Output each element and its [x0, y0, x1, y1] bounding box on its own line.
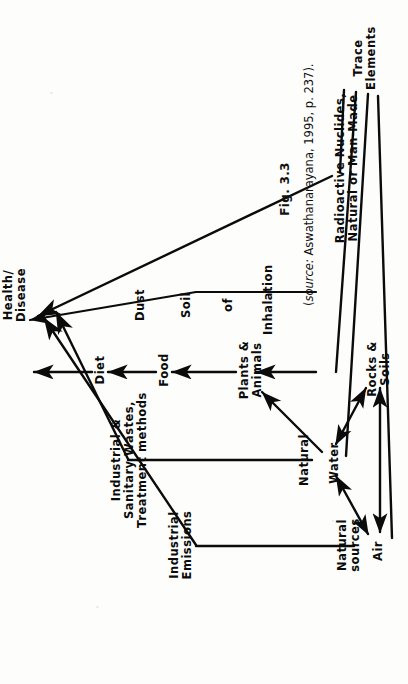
source-prefix: source: — [302, 259, 316, 301]
figure-number: Fig. 3.3 — [278, 159, 292, 219]
rotated-figure-container: Health/ Disease Air Water Rocks & Soils … — [0, 0, 408, 684]
edge-label-inhalation-word-1: Inhalation — [262, 271, 275, 335]
scan-speck — [50, 92, 53, 94]
node-diet: Diet — [94, 350, 107, 390]
scan-speck — [96, 606, 99, 608]
edge-label-industrial-emissions: Industrial Emissions — [168, 510, 194, 580]
scan-speck — [18, 300, 20, 303]
edge-label-inhalation-word-3: Soil — [180, 287, 193, 323]
edge-water-rocks-bidirectional — [336, 388, 366, 444]
figure-page: Health/ Disease Air Water Rocks & Soils … — [0, 0, 408, 684]
node-air: Air — [372, 534, 385, 568]
edge-label-natural-sources: Natural sources — [336, 512, 362, 578]
node-radioactive-nuclides: Radioactive Nuclides, Natural or Man-Mad… — [334, 92, 360, 244]
edge-label-natural: Natural — [298, 432, 311, 488]
node-water: Water — [328, 441, 341, 485]
diagram-canvas: Health/ Disease Air Water Rocks & Soils … — [0, 0, 408, 684]
figure-source-caption: (source: Aswathanarayana, 1995, p. 237). — [302, 66, 316, 306]
node-trace-elements: Trace Elements — [352, 22, 378, 94]
edge-label-inhalation-word-4: Dust — [134, 284, 147, 326]
edge-inhalation-to-health — [30, 292, 196, 320]
node-rocks-soils: Rocks & Soils — [366, 341, 392, 397]
node-health-disease: Health/ Disease — [2, 260, 28, 330]
scan-speck — [332, 520, 334, 522]
node-food: Food — [158, 348, 171, 392]
edge-label-industrial-sanitary-wastes: Industrial & Sanitary Wastes, Treatment … — [110, 388, 149, 532]
edge-label-inhalation-word-2: of — [222, 294, 235, 316]
node-plants-animals: Plants & Animals — [238, 339, 264, 401]
edge-water-to-plants — [262, 392, 322, 452]
source-text: Aswathanarayana, 1995, p. 237). — [302, 63, 316, 259]
